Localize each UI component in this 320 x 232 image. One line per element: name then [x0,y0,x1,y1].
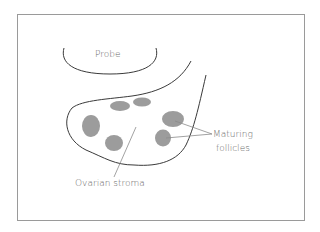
follicles-label-line2: follicles [216,143,250,153]
follicle-leader-line [175,121,212,134]
stroma-label: Ovarian stroma [75,178,145,188]
follicles [82,98,184,152]
stroma-leader-line [114,127,136,177]
diagram-frame [18,15,305,221]
ovary-outline [67,61,206,165]
ovary-ultrasound-diagram [0,0,320,232]
follicle [82,115,100,137]
follicle [110,101,130,111]
probe-label: Probe [95,49,121,59]
follicle [105,135,123,151]
follicle [133,98,151,107]
follicle [162,111,184,127]
follicles-label-line1: Maturing [213,129,253,139]
